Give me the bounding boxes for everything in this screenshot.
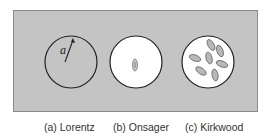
onsager-cavity	[110, 36, 162, 88]
caption-onsager: (b) Onsager	[113, 121, 169, 133]
kirkwood-cavity	[182, 36, 234, 88]
radius-label: a	[60, 43, 66, 57]
lorentz-cavity: a	[45, 36, 97, 88]
cavity-diagrams: a	[0, 0, 271, 138]
caption-lorentz: (a) Lorentz	[44, 121, 95, 133]
caption-kirkwood: (c) Kirkwood	[185, 121, 243, 133]
